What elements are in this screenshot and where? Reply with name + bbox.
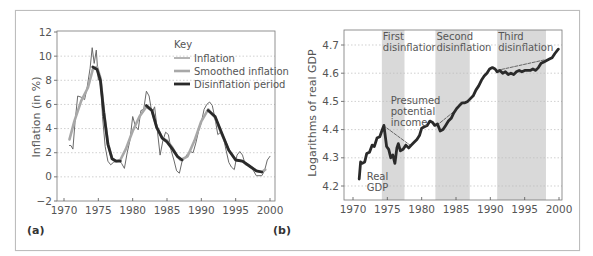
band-label: First (383, 31, 404, 42)
y-tick-label: 4.4 (322, 123, 339, 135)
x-tick-label: 2000 (257, 204, 284, 216)
x-tick-label: 1980 (119, 204, 146, 216)
disinflation-band (497, 30, 546, 200)
chart-real-gdp: FirstdisinflationSeconddisinflationThird… (273, 30, 572, 237)
y-axis-label: Inflation (in %) (30, 76, 43, 157)
chart-inflation: −20246810121970197519801985199019952000 … (27, 26, 289, 238)
series-line (93, 67, 121, 161)
figure: −20246810121970197519801985199019952000 … (0, 0, 593, 256)
band-label: Second (436, 31, 473, 42)
x-tick-label: 1995 (511, 203, 538, 215)
annotation-text: Presumed (391, 95, 441, 106)
y-tick-label: 6 (45, 98, 52, 110)
annotation-text: Real (367, 171, 389, 182)
y-tick-label: 4.6 (322, 67, 339, 79)
x-tick-label: 1975 (374, 203, 401, 215)
panel-label-a: (a) (27, 224, 44, 237)
series-line (208, 111, 262, 173)
y-tick-label: 4.3 (322, 151, 339, 163)
x-tick-label: 1970 (51, 204, 78, 216)
x-tick-label: 1990 (477, 203, 504, 215)
panel-label-b: (b) (273, 224, 291, 237)
y-tick-label: 4.7 (322, 39, 339, 51)
band-label: Third (497, 31, 524, 42)
x-tick-label: 2000 (546, 203, 573, 215)
band-label: disinflation (498, 42, 553, 53)
x-tick-label: 1980 (408, 203, 435, 215)
y-tick-label: 4 (45, 122, 52, 134)
annotation-text: income (391, 117, 428, 128)
x-tick-label: 1970 (340, 203, 367, 215)
y-tick-label: 0 (45, 170, 52, 182)
y-tick-label: 2 (45, 146, 52, 158)
legend-entry: Inflation (194, 53, 235, 64)
y-tick-label: 8 (45, 74, 52, 86)
legend-entry: Smoothed inflation (194, 66, 289, 77)
legend-entry: Disinflation period (194, 79, 285, 90)
x-tick-label: 1985 (443, 203, 470, 215)
x-tick-label: 1995 (222, 204, 249, 216)
legend-title: Key (174, 39, 192, 50)
band-label: disinflation (383, 42, 438, 53)
legend: KeyInflationSmoothed inflationDisinflati… (174, 39, 289, 90)
y-axis-label: Logarithms of real GDP (306, 49, 319, 177)
y-tick-label: 10 (39, 50, 52, 62)
band-label: disinflation (436, 42, 491, 53)
series-line (146, 106, 182, 160)
x-tick-label: 1985 (154, 204, 181, 216)
y-tick-label: 12 (39, 26, 52, 38)
x-tick-label: 1975 (85, 204, 112, 216)
y-tick-label: 4.2 (322, 180, 339, 192)
annotation-text: potential (391, 106, 435, 117)
annotation-text: GDP (367, 182, 388, 193)
y-tick-label: 4.5 (322, 95, 339, 107)
x-tick-label: 1990 (188, 204, 215, 216)
